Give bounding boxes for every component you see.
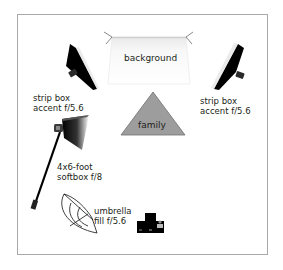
strip-box-right-icon xyxy=(211,43,245,90)
softbox-line1: 4x6-foot xyxy=(57,162,102,172)
strip-box-right-line1: strip box xyxy=(200,96,251,106)
strip-box-left-line2: accent f/5.6 xyxy=(33,103,84,113)
softbox-label: 4x6-foot softbox f/8 xyxy=(57,162,102,182)
strip-box-right-line2: accent f/5.6 xyxy=(200,106,251,116)
umbrella-line1: umbrella xyxy=(94,206,132,216)
umbrella-line2: fill f/5.6 xyxy=(94,216,132,226)
softbox-line2: softbox f/8 xyxy=(57,172,102,182)
strip-box-left-line1: strip box xyxy=(33,93,84,103)
strip-box-left-icon xyxy=(66,44,99,90)
strip-box-right-label: strip box accent f/5.6 xyxy=(200,96,251,116)
strip-box-left-label: strip box accent f/5.6 xyxy=(33,93,84,113)
background-label: background xyxy=(124,53,177,63)
family-label: family xyxy=(138,120,166,130)
umbrella-icon xyxy=(62,194,97,233)
camera-icon xyxy=(137,213,164,233)
umbrella-label: umbrella fill f/5.6 xyxy=(94,206,132,226)
